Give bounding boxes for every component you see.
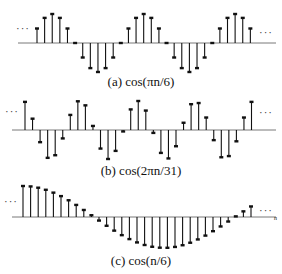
stem-marker <box>144 109 148 111</box>
stem-marker <box>250 101 254 103</box>
stem-marker <box>135 241 139 243</box>
stem-marker <box>204 116 208 118</box>
stem-marker <box>182 122 186 124</box>
stem-marker <box>61 137 65 139</box>
stem-marker <box>38 141 42 143</box>
stem-marker <box>212 139 216 141</box>
stem-marker <box>126 27 130 29</box>
stem-marker <box>120 234 124 236</box>
stem-marker <box>51 191 55 193</box>
stem-marker <box>53 154 57 156</box>
stem-marker <box>210 42 214 44</box>
stem-marker <box>134 17 138 19</box>
stem-marker <box>196 238 200 240</box>
stem-marker <box>83 104 87 106</box>
stem-marker <box>226 220 230 222</box>
stem-marker <box>143 244 147 246</box>
stem-marker <box>180 67 184 69</box>
stem-marker <box>99 147 103 149</box>
axis-label-n: n <box>274 215 277 221</box>
ellipsis-a-left: ··· <box>16 22 30 34</box>
stem-marker <box>158 246 162 248</box>
stem-marker <box>189 103 193 105</box>
stem-marker <box>36 187 40 189</box>
stem-marker <box>81 56 85 58</box>
stem-marker <box>111 56 115 58</box>
stem-marker <box>234 140 238 142</box>
caption-c: (c) cos(n/6) <box>0 253 282 269</box>
stem-marker <box>46 157 50 159</box>
stem-plot-2: n <box>12 185 277 249</box>
stem-marker <box>96 71 100 73</box>
stem-marker <box>119 42 123 44</box>
stem-marker <box>73 42 77 44</box>
stem-marker <box>174 145 178 147</box>
stem-marker <box>173 246 177 248</box>
ellipsis-c-left: ··· <box>4 195 18 207</box>
stem-marker <box>227 155 231 157</box>
stem-marker <box>136 100 140 102</box>
ellipsis-b-right: ··· <box>259 106 273 118</box>
stem-marker <box>106 158 110 160</box>
stem-marker <box>112 229 116 231</box>
stem-marker <box>142 13 146 15</box>
stem-marker <box>104 67 108 69</box>
stem-marker <box>97 219 101 221</box>
stem-marker <box>172 56 176 58</box>
stem-marker <box>233 13 237 15</box>
stem-marker <box>76 100 80 102</box>
stem-marker <box>166 157 170 159</box>
stem-marker <box>65 27 69 29</box>
stem-marker <box>58 17 62 19</box>
stem-marker <box>59 195 63 197</box>
stem-marker <box>88 67 92 69</box>
stem-marker <box>211 230 215 232</box>
stem-marker <box>151 132 155 134</box>
caption-a: (a) cos(πn/6) <box>0 74 282 90</box>
stem-marker <box>249 205 253 207</box>
stem-marker <box>241 17 245 19</box>
stem-marker <box>187 71 191 73</box>
stem-marker <box>242 116 246 118</box>
stem-marker <box>114 150 118 152</box>
stem-plot-0 <box>18 13 276 73</box>
stem-marker <box>67 199 71 201</box>
stem-marker <box>234 215 238 217</box>
stem-marker <box>149 17 153 19</box>
stem-marker <box>129 108 133 110</box>
stem-marker <box>157 27 161 29</box>
stem-marker <box>248 27 252 29</box>
stem-marker <box>197 102 201 104</box>
stem-marker <box>105 225 109 227</box>
stem-marker <box>188 242 192 244</box>
stem-marker <box>74 204 78 206</box>
stem-marker <box>219 225 223 227</box>
stem-marker <box>89 214 93 216</box>
stem-marker <box>159 152 163 154</box>
stem-marker <box>165 247 169 249</box>
stem-marker <box>165 42 169 44</box>
stem-marker <box>82 209 86 211</box>
stem-marker <box>203 234 207 236</box>
ellipsis-c-right: ··· <box>259 204 273 216</box>
stem-marker <box>241 210 245 212</box>
stem-marker <box>29 185 33 187</box>
stem-plots: n <box>0 0 282 274</box>
stem-marker <box>181 244 185 246</box>
stem-marker <box>195 67 199 69</box>
stem-marker <box>21 185 25 187</box>
stem-marker <box>35 27 39 29</box>
stem-marker <box>203 56 207 58</box>
stem-marker <box>218 27 222 29</box>
stem-marker <box>50 13 54 15</box>
ellipsis-b-left: ··· <box>5 105 19 117</box>
stem-marker <box>44 189 48 191</box>
stem-marker <box>150 246 154 248</box>
stem-marker <box>219 156 223 158</box>
stem-marker <box>43 17 47 19</box>
stem-plot-1 <box>12 100 276 160</box>
caption-b: (b) cos(2πn/31) <box>0 163 282 179</box>
ellipsis-a-right: ··· <box>259 26 273 38</box>
stem-marker <box>91 125 95 127</box>
stem-marker <box>31 117 35 119</box>
